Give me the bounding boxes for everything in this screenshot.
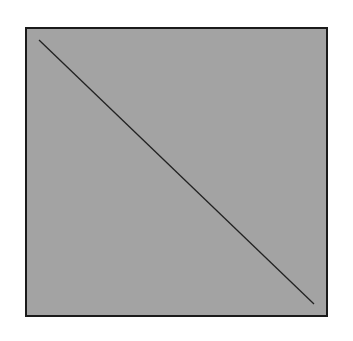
origami-diagram: Origami fold step: fold corner to point bbox=[0, 0, 353, 341]
